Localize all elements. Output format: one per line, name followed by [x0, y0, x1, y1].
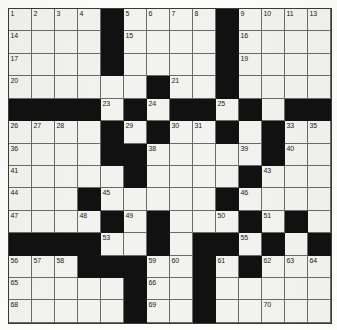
crossword-cell[interactable]: 48: [78, 211, 101, 233]
crossword-cell[interactable]: [193, 166, 216, 188]
crossword-cell[interactable]: 56: [9, 256, 32, 278]
crossword-cell[interactable]: [285, 278, 308, 300]
crossword-cell[interactable]: 6: [147, 9, 170, 31]
crossword-cell[interactable]: [78, 31, 101, 53]
crossword-cell[interactable]: [147, 31, 170, 53]
crossword-cell[interactable]: [193, 31, 216, 53]
crossword-cell[interactable]: 23: [101, 99, 124, 121]
crossword-cell[interactable]: 5: [124, 9, 147, 31]
crossword-cell[interactable]: [285, 76, 308, 98]
crossword-cell[interactable]: [193, 211, 216, 233]
crossword-cell[interactable]: 9: [239, 9, 262, 31]
crossword-cell[interactable]: [55, 188, 78, 210]
crossword-cell[interactable]: 65: [9, 278, 32, 300]
crossword-cell[interactable]: [32, 188, 55, 210]
crossword-cell[interactable]: [285, 233, 308, 255]
crossword-cell[interactable]: [216, 166, 239, 188]
crossword-cell[interactable]: [124, 76, 147, 98]
crossword-cell[interactable]: [285, 54, 308, 76]
crossword-cell[interactable]: [262, 278, 285, 300]
crossword-cell[interactable]: [101, 300, 124, 322]
crossword-cell[interactable]: 8: [193, 9, 216, 31]
crossword-cell[interactable]: [239, 300, 262, 322]
crossword-cell[interactable]: [55, 31, 78, 53]
crossword-cell[interactable]: 49: [124, 211, 147, 233]
crossword-cell[interactable]: [193, 188, 216, 210]
crossword-cell[interactable]: [216, 278, 239, 300]
crossword-cell[interactable]: [262, 31, 285, 53]
crossword-cell[interactable]: 60: [170, 256, 193, 278]
crossword-cell[interactable]: [285, 31, 308, 53]
crossword-cell[interactable]: [78, 121, 101, 143]
crossword-cell[interactable]: [262, 76, 285, 98]
crossword-cell[interactable]: 16: [239, 31, 262, 53]
crossword-cell[interactable]: [308, 31, 331, 53]
crossword-cell[interactable]: 1: [9, 9, 32, 31]
crossword-cell[interactable]: [32, 76, 55, 98]
crossword-cell[interactable]: [78, 76, 101, 98]
crossword-cell[interactable]: [55, 76, 78, 98]
crossword-cell[interactable]: [170, 278, 193, 300]
crossword-cell[interactable]: 51: [262, 211, 285, 233]
crossword-cell[interactable]: [216, 300, 239, 322]
crossword-cell[interactable]: 43: [262, 166, 285, 188]
crossword-cell[interactable]: [32, 211, 55, 233]
crossword-cell[interactable]: 17: [9, 54, 32, 76]
crossword-cell[interactable]: [239, 121, 262, 143]
crossword-cell[interactable]: [147, 166, 170, 188]
crossword-cell[interactable]: 57: [32, 256, 55, 278]
crossword-cell[interactable]: [78, 54, 101, 76]
crossword-cell[interactable]: [262, 54, 285, 76]
crossword-cell[interactable]: 2: [32, 9, 55, 31]
crossword-cell[interactable]: 29: [124, 121, 147, 143]
crossword-cell[interactable]: 33: [285, 121, 308, 143]
crossword-cell[interactable]: 35: [308, 121, 331, 143]
crossword-cell[interactable]: 50: [216, 211, 239, 233]
crossword-cell[interactable]: 13: [308, 9, 331, 31]
crossword-cell[interactable]: [170, 31, 193, 53]
crossword-cell[interactable]: 27: [32, 121, 55, 143]
crossword-cell[interactable]: [170, 54, 193, 76]
crossword-cell[interactable]: 19: [239, 54, 262, 76]
crossword-cell[interactable]: 28: [55, 121, 78, 143]
crossword-cell[interactable]: 21: [170, 76, 193, 98]
crossword-cell[interactable]: [170, 211, 193, 233]
crossword-cell[interactable]: [101, 76, 124, 98]
crossword-cell[interactable]: [55, 144, 78, 166]
crossword-cell[interactable]: [101, 166, 124, 188]
crossword-cell[interactable]: 3: [55, 9, 78, 31]
crossword-cell[interactable]: [285, 166, 308, 188]
crossword-cell[interactable]: 44: [9, 188, 32, 210]
crossword-cell[interactable]: [78, 300, 101, 322]
crossword-cell[interactable]: 45: [101, 188, 124, 210]
crossword-cell[interactable]: 7: [170, 9, 193, 31]
crossword-cell[interactable]: [262, 188, 285, 210]
crossword-cell[interactable]: [216, 144, 239, 166]
crossword-cell[interactable]: [308, 188, 331, 210]
crossword-cell[interactable]: [32, 31, 55, 53]
crossword-cell[interactable]: [124, 188, 147, 210]
crossword-cell[interactable]: 31: [193, 121, 216, 143]
crossword-cell[interactable]: [78, 144, 101, 166]
crossword-cell[interactable]: 46: [239, 188, 262, 210]
crossword-cell[interactable]: 11: [285, 9, 308, 31]
crossword-cell[interactable]: 14: [9, 31, 32, 53]
crossword-cell[interactable]: [285, 300, 308, 322]
crossword-cell[interactable]: [239, 278, 262, 300]
crossword-cell[interactable]: [32, 144, 55, 166]
crossword-cell[interactable]: 47: [9, 211, 32, 233]
crossword-cell[interactable]: 58: [55, 256, 78, 278]
crossword-cell[interactable]: 41: [9, 166, 32, 188]
crossword-cell[interactable]: [170, 144, 193, 166]
crossword-cell[interactable]: [308, 300, 331, 322]
crossword-cell[interactable]: 69: [147, 300, 170, 322]
crossword-cell[interactable]: [55, 166, 78, 188]
crossword-cell[interactable]: [78, 278, 101, 300]
crossword-grid[interactable]: 1234567891011131415161719202123242526272…: [8, 8, 332, 324]
crossword-cell[interactable]: [170, 188, 193, 210]
crossword-cell[interactable]: [32, 300, 55, 322]
crossword-cell[interactable]: 24: [147, 99, 170, 121]
crossword-cell[interactable]: 39: [239, 144, 262, 166]
crossword-cell[interactable]: 61: [216, 256, 239, 278]
crossword-cell[interactable]: 70: [262, 300, 285, 322]
